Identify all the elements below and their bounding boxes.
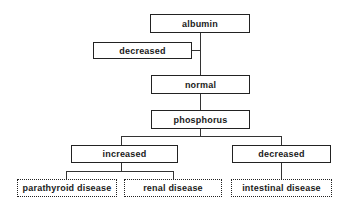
node-parathyroid-disease: parathyroid disease	[17, 179, 117, 197]
connector-decreased-intestinal	[281, 163, 282, 179]
connector-increased-branch	[66, 171, 174, 172]
connector-albumin-decreased	[192, 50, 200, 51]
node-albumin-decreased: decreased	[93, 42, 192, 59]
connector-phosphorus-branch	[121, 136, 282, 137]
node-albumin-normal: normal	[151, 75, 250, 94]
connector-increased-down	[121, 163, 122, 171]
connector-phosphorus-down	[200, 129, 201, 136]
connector-normal-phosphorus	[200, 94, 201, 110]
connector-albumin-normal	[200, 33, 201, 75]
node-intestinal-disease: intestinal disease	[231, 179, 332, 197]
connector-to-increased	[121, 136, 122, 145]
node-phosphorus-increased: increased	[71, 145, 178, 163]
node-renal-disease: renal disease	[124, 179, 222, 197]
node-phosphorus-decreased: decreased	[232, 145, 331, 163]
node-phosphorus: phosphorus	[151, 110, 250, 129]
connector-to-decreased	[281, 136, 282, 145]
connector-to-renal	[173, 171, 174, 179]
connector-to-parathyroid	[66, 171, 67, 179]
node-albumin: albumin	[150, 14, 250, 33]
